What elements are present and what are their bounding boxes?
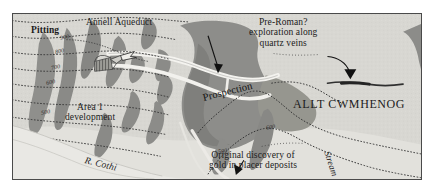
map-frame: Pitting Annell Aqueduct Pre-Roman? explo… [12,13,422,180]
label-pitting: Pitting [31,25,59,35]
label-area-1: Area 1 development [65,102,115,123]
label-allt-cwmhenog: ALLT CWMHENOG [293,98,405,111]
contour-label: 600 [266,124,276,131]
figure-root: Pitting Annell Aqueduct Pre-Roman? explo… [0,0,435,196]
label-pre-roman: Pre-Roman? exploration along quartz vein… [249,17,317,48]
label-annell-aqueduct: Annell Aqueduct [86,17,152,27]
quartz-vein-thicken [341,83,369,84]
contour-label: 500 [218,148,228,155]
